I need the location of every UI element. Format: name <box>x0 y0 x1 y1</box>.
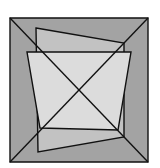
geometric-diagram <box>0 0 160 168</box>
